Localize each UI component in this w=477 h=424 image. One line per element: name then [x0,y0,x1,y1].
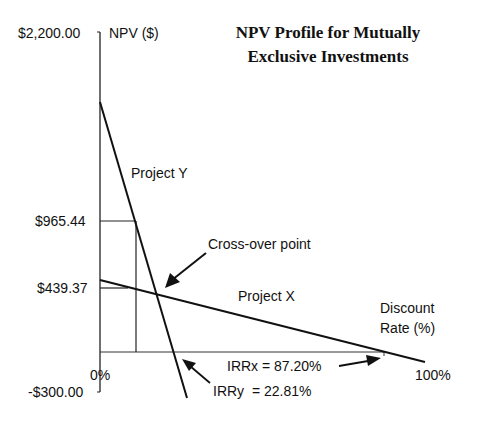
chart-title: NPV Profile for Mutually Exclusive Inves… [218,21,438,69]
irry-label: IRRy = 22.81% [213,383,311,399]
chart-title-line1: NPV Profile for Mutually [218,21,438,45]
y-axis-label: NPV ($) [109,25,159,41]
irry-arrow-icon [182,359,210,383]
y-tick-neg300: -$300.00 [28,384,83,400]
y-tick-2200: $2,200.00 [18,25,80,41]
x-axis-label-line1: Discount [380,300,434,316]
project-y-line [100,102,187,398]
project-y-label: Project Y [131,165,188,181]
project-x-label: Project X [238,288,295,304]
y-tick-439: $439.37 [37,280,88,296]
x-tick-0: 0% [90,367,110,383]
irrx-label: IRRx = 87.20% [227,358,322,374]
y-tick-965: $965.44 [35,213,86,229]
crossover-arrow-icon [165,253,206,288]
crossover-label: Cross-over point [208,236,311,252]
x-tick-100: 100% [415,367,451,383]
irrx-arrow-icon [339,355,381,366]
chart-title-line2: Exclusive Investments [218,45,438,69]
x-axis-label-line2: Rate (%) [380,320,435,336]
